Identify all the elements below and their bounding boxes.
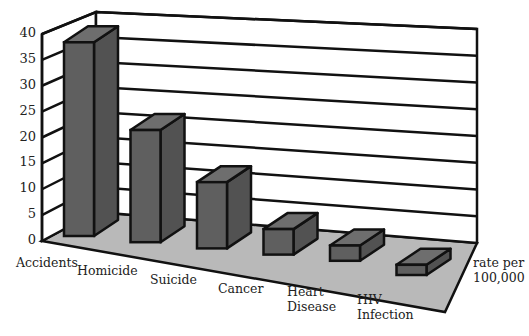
x-category-label: Accidents (16, 255, 78, 270)
y-tick-label: 25 (6, 103, 36, 118)
x-category-label: HIV Infection (357, 292, 414, 322)
bar-chart-3d (0, 0, 529, 336)
y-tick-label: 10 (6, 180, 36, 195)
x-category-label: Cancer (218, 281, 263, 296)
y-tick-label: 15 (6, 154, 36, 169)
bar-accidents (64, 42, 94, 236)
chart-area: 0510152025303540 AccidentsHomicideSuicid… (0, 0, 529, 336)
y-axis-unit-label: rate per 100,000 (473, 255, 525, 285)
bar-side-1 (161, 114, 185, 242)
bar-hiv-infection (397, 265, 427, 275)
y-tick-label: 35 (6, 51, 36, 66)
y-tick-label: 20 (6, 129, 36, 144)
bar-heart-disease (330, 246, 360, 261)
y-tick-label: 5 (6, 206, 36, 221)
y-tick-label: 40 (6, 25, 36, 40)
bar-homicide (131, 130, 161, 242)
x-category-label: Heart Disease (287, 284, 336, 314)
bar-suicide (197, 182, 227, 248)
x-category-label: Suicide (150, 272, 197, 287)
y-tick-label: 0 (6, 232, 36, 247)
y-tick-label: 30 (6, 77, 36, 92)
x-category-label: Homicide (77, 263, 138, 278)
bar-side-0 (94, 26, 118, 236)
bar-cancer (264, 229, 294, 254)
